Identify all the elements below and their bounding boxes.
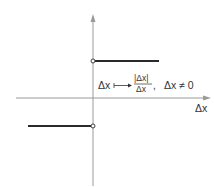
formula-lhs: Δx (98, 79, 111, 91)
formula-separator: , (153, 80, 156, 91)
open-endpoint-negative (91, 124, 95, 128)
x-axis-arrow-icon (203, 96, 211, 101)
formula-condition: Δx ≠ 0 (164, 79, 194, 91)
maps-to-arrowhead-icon (128, 84, 132, 88)
y-axis-arrow-icon (91, 14, 96, 22)
x-axis-label: Δx (195, 102, 208, 114)
open-endpoint-positive (91, 59, 95, 63)
formula-denominator: Δx (136, 84, 147, 94)
formula-numerator: |Δx| (134, 73, 148, 83)
sign-function-graph: Δx |Δx| Δx , Δx ≠ 0 Δx (0, 0, 214, 187)
